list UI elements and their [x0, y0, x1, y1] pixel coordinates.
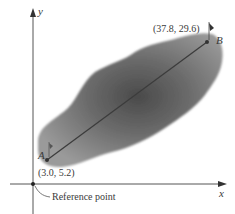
point-a-coordinates: (3.0, 5.2)	[38, 168, 75, 178]
point-a-label: A	[38, 150, 45, 161]
coordinate-diagram: y x (37.8, 29.6) B (3.0, 5.2) A Referenc…	[0, 0, 235, 214]
x-axis-label: x	[219, 188, 224, 199]
shaded-region	[38, 33, 223, 167]
reference-point-leader	[35, 186, 50, 197]
point-b-dot	[205, 40, 209, 44]
point-b-coordinates: (37.8, 29.6)	[153, 24, 200, 34]
point-a-dot	[45, 158, 49, 162]
y-axis-label: y	[38, 6, 43, 17]
reference-point-label: Reference point	[52, 192, 116, 202]
y-axis-arrow-icon	[30, 8, 36, 17]
reference-point-dot	[31, 182, 35, 186]
point-b-label: B	[216, 35, 223, 46]
